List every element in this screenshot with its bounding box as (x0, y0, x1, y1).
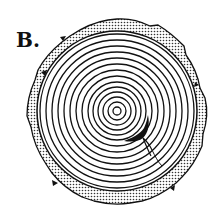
tree-cross-section (0, 0, 222, 219)
